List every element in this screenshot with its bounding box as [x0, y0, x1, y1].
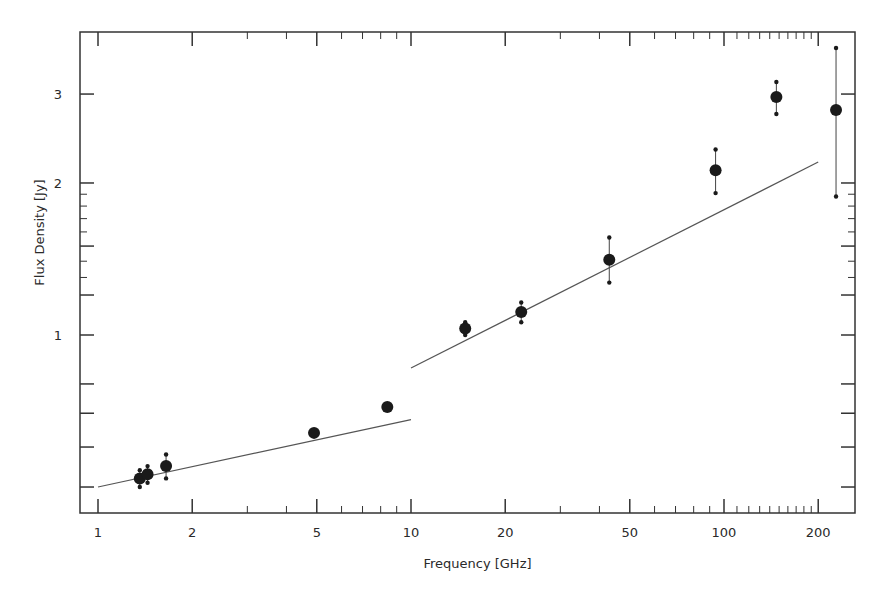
data-marker	[160, 460, 172, 472]
data-point	[381, 401, 393, 413]
y-tick-label: 1	[54, 328, 62, 343]
fit-lines	[98, 162, 818, 487]
error-cap-top	[138, 468, 142, 472]
error-cap-bottom	[145, 480, 149, 484]
error-cap-top	[834, 46, 838, 50]
data-marker	[308, 427, 320, 439]
error-cap-bottom	[774, 112, 778, 116]
data-point	[770, 80, 782, 116]
data-point	[515, 300, 527, 324]
y-axis-title: Flux Density [Jy]	[32, 179, 47, 285]
error-cap-bottom	[834, 194, 838, 198]
y-tick-label: 2	[54, 176, 62, 191]
x-tick-label: 20	[497, 525, 514, 540]
error-cap-bottom	[607, 280, 611, 284]
data-marker	[603, 254, 615, 266]
data-marker	[381, 401, 393, 413]
error-cap-top	[519, 300, 523, 304]
data-point	[160, 452, 172, 480]
flux-density-spectrum-chart: 125102050100200123 Frequency [GHz] Flux …	[0, 0, 885, 597]
error-cap-bottom	[138, 485, 142, 489]
plot-frame	[80, 32, 855, 513]
fit-high-line	[411, 162, 818, 368]
data-point	[459, 320, 471, 337]
data-marker	[830, 104, 842, 116]
x-tick-label: 2	[188, 525, 196, 540]
error-cap-bottom	[519, 320, 523, 324]
x-tick-label: 10	[403, 525, 420, 540]
axis-ticks	[80, 32, 855, 513]
error-cap-bottom	[713, 191, 717, 195]
x-tick-label: 200	[806, 525, 831, 540]
data-marker	[142, 468, 154, 480]
error-cap-bottom	[164, 476, 168, 480]
x-tick-label: 100	[712, 525, 737, 540]
x-tick-label: 50	[622, 525, 639, 540]
data-point	[710, 147, 722, 195]
x-tick-label: 1	[94, 525, 102, 540]
data-point	[603, 235, 615, 285]
data-marker	[770, 91, 782, 103]
error-cap-top	[774, 80, 778, 84]
x-tick-label: 5	[313, 525, 321, 540]
error-cap-top	[164, 452, 168, 456]
data-points	[134, 46, 842, 489]
y-tick-label: 3	[54, 87, 62, 102]
data-point	[308, 427, 320, 439]
data-marker	[710, 164, 722, 176]
x-axis-title: Frequency [GHz]	[423, 556, 531, 571]
error-cap-top	[607, 235, 611, 239]
error-cap-top	[713, 147, 717, 151]
error-cap-top	[145, 464, 149, 468]
data-marker	[515, 306, 527, 318]
data-marker	[459, 323, 471, 335]
data-point	[830, 46, 842, 199]
